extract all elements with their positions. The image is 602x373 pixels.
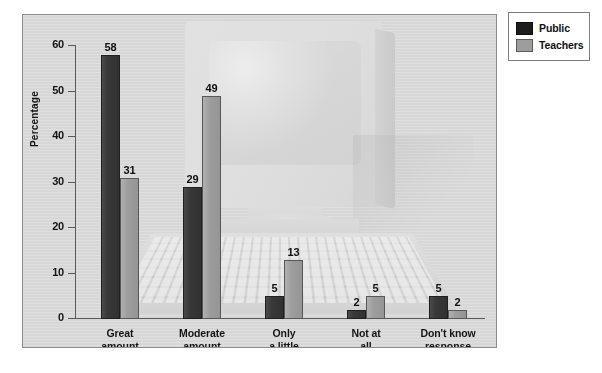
y-tick-label: 40 <box>52 129 64 141</box>
bar-public[interactable]: 29 <box>183 187 202 319</box>
bar-rect[interactable] <box>101 55 120 319</box>
y-tick-label: 20 <box>52 220 64 232</box>
legend-label: Teachers <box>539 39 584 51</box>
bar-public[interactable]: 2 <box>347 310 366 319</box>
y-tick-60: 60 <box>68 45 75 46</box>
y-tick-40: 40 <box>68 136 75 137</box>
bar-rect[interactable] <box>183 187 202 319</box>
y-tick-30: 30 <box>68 182 75 183</box>
bar-rect[interactable] <box>265 296 284 319</box>
bar-value-label: 5 <box>436 282 442 294</box>
legend-item-teachers[interactable]: Teachers <box>516 37 582 53</box>
bar-teachers[interactable]: 31 <box>120 178 139 319</box>
bar-group: 52Don't know response <box>407 45 489 319</box>
bar-pair: 52 <box>407 45 489 319</box>
y-axis-title: Percentage <box>29 91 40 147</box>
bar-value-label: 5 <box>272 282 278 294</box>
bar-rect[interactable] <box>429 296 448 319</box>
bar-value-label: 31 <box>124 164 136 176</box>
bar-value-label: 58 <box>105 41 117 53</box>
y-tick-label: 60 <box>52 38 64 50</box>
bar-group: 25Not at all <box>325 45 407 319</box>
y-tick-label: 50 <box>52 84 64 96</box>
bar-rect[interactable] <box>366 296 385 319</box>
bar-group: 5831Great amount <box>79 45 161 319</box>
y-tick-label: 10 <box>52 266 64 278</box>
bar-value-label: 5 <box>373 282 379 294</box>
bar-public[interactable]: 5 <box>265 296 284 319</box>
x-axis-category-label: Only a little <box>243 319 325 348</box>
x-axis-category-label: Moderate amount <box>161 319 243 348</box>
bar-pair: 25 <box>325 45 407 319</box>
bar-rect[interactable] <box>202 96 221 319</box>
bar-teachers[interactable]: 13 <box>284 260 303 319</box>
chart-panel: 0102030405060 Percentage 5831Great amoun… <box>22 14 497 348</box>
bar-pair: 2949 <box>161 45 243 319</box>
bar-value-label: 2 <box>354 296 360 308</box>
x-axis-category-label: Not at all <box>325 319 407 348</box>
bar-value-label: 2 <box>455 296 461 308</box>
bar-pair: 513 <box>243 45 325 319</box>
bar-rect[interactable] <box>284 260 303 319</box>
bar-value-label: 13 <box>288 246 300 258</box>
bar-public[interactable]: 58 <box>101 55 120 319</box>
bar-rect[interactable] <box>120 178 139 319</box>
bar-pair: 5831 <box>79 45 161 319</box>
y-tick-0: 0 <box>68 318 75 319</box>
y-axis-line <box>75 45 76 319</box>
legend-swatch-teachers <box>516 39 533 52</box>
x-axis-category-label: Great amount <box>79 319 161 348</box>
bar-teachers[interactable]: 2 <box>448 310 467 319</box>
legend-item-public[interactable]: Public <box>516 20 582 36</box>
bar-value-label: 49 <box>206 82 218 94</box>
plot-area: 0102030405060 Percentage 5831Great amoun… <box>23 15 496 347</box>
chart-legend: PublicTeachers <box>508 12 590 61</box>
bar-rect[interactable] <box>448 310 467 319</box>
bar-group: 2949Moderate amount <box>161 45 243 319</box>
y-tick-label: 30 <box>52 175 64 187</box>
legend-swatch-public <box>516 22 533 35</box>
y-tick-label: 0 <box>58 311 64 323</box>
bar-rect[interactable] <box>347 310 366 319</box>
legend-label: Public <box>539 22 570 34</box>
bar-public[interactable]: 5 <box>429 296 448 319</box>
bar-value-label: 29 <box>187 173 199 185</box>
bar-teachers[interactable]: 5 <box>366 296 385 319</box>
x-axis-category-label: Don't know response <box>407 319 489 348</box>
y-tick-10: 10 <box>68 273 75 274</box>
y-tick-50: 50 <box>68 91 75 92</box>
figure: 0102030405060 Percentage 5831Great amoun… <box>0 0 602 373</box>
bar-teachers[interactable]: 49 <box>202 96 221 319</box>
y-tick-20: 20 <box>68 227 75 228</box>
bar-group: 513Only a little <box>243 45 325 319</box>
